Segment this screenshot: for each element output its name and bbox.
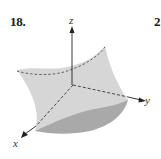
z-axis-arrow-icon [70,26,75,33]
x-axis [25,126,36,134]
x-axis-label: x [13,137,18,149]
surface-figure: 18. 2 z y x [0,0,161,159]
exercise-number: 18. [10,14,25,30]
next-exercise-number-partial: 2 [154,14,161,30]
z-axis-label: z [69,14,73,26]
y-axis-label: y [145,94,150,106]
